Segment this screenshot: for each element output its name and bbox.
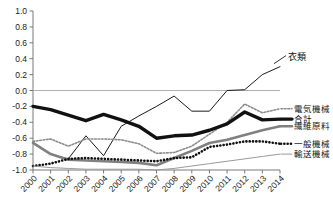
annotation-leader-line bbox=[274, 56, 286, 64]
x-tick-label: 2002 bbox=[54, 173, 75, 194]
series-line-2 bbox=[33, 106, 280, 138]
chart-container: 1.00.80.60.40.20.0-0.2-0.4-0.6-0.8-1.020… bbox=[0, 0, 333, 212]
x-tick-label: 2007 bbox=[142, 173, 163, 194]
x-tick-label: 2010 bbox=[195, 173, 216, 194]
x-tick-label: 2014 bbox=[265, 173, 286, 194]
legend-label-3: 一般機械 bbox=[294, 139, 330, 149]
x-tick-label: 2001 bbox=[36, 173, 57, 194]
y-tick-label: 0.0 bbox=[15, 86, 27, 96]
legend-label-4: 輸送機械 bbox=[294, 149, 330, 159]
x-tick-label: 2005 bbox=[107, 173, 128, 194]
y-tick-label: 0.8 bbox=[15, 22, 27, 32]
x-tick-label: 2013 bbox=[248, 173, 269, 194]
x-tick-label: 2000 bbox=[18, 173, 39, 194]
y-tick-label: 0.4 bbox=[15, 54, 27, 64]
line-chart: 1.00.80.60.40.20.0-0.2-0.4-0.6-0.8-1.020… bbox=[0, 0, 333, 212]
legend-label-2: 繊維原料 bbox=[294, 121, 330, 131]
legend-label-0: 電気機械 bbox=[294, 104, 330, 114]
x-tick-label: 2008 bbox=[160, 173, 181, 194]
x-tick-label: 2012 bbox=[230, 173, 251, 194]
y-tick-label: -0.6 bbox=[12, 133, 27, 143]
y-tick-label: -0.4 bbox=[12, 117, 27, 127]
y-tick-label: 0.6 bbox=[15, 38, 27, 48]
x-tick-label: 2004 bbox=[89, 173, 110, 194]
annotation-clothing: 衣類 bbox=[288, 51, 306, 62]
x-tick-label: 2009 bbox=[177, 173, 198, 194]
y-tick-label: -0.2 bbox=[12, 101, 27, 111]
x-tick-label: 2003 bbox=[71, 173, 92, 194]
y-tick-label: 0.2 bbox=[15, 70, 27, 80]
y-tick-label: -0.8 bbox=[12, 149, 27, 159]
y-tick-label: -1.0 bbox=[12, 165, 27, 175]
x-tick-label: 2011 bbox=[213, 173, 233, 193]
x-tick-label: 2006 bbox=[124, 173, 145, 194]
y-tick-label: 1.0 bbox=[15, 6, 27, 16]
